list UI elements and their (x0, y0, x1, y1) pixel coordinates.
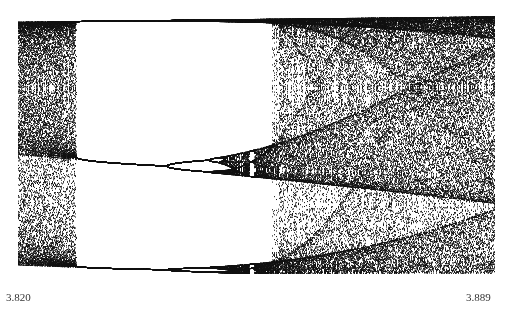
x-axis-max-label: 3.889 (466, 291, 491, 303)
bifurcation-plot (0, 0, 508, 314)
x-axis-min-label: 3.820 (6, 291, 31, 303)
